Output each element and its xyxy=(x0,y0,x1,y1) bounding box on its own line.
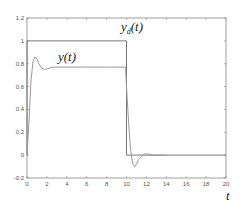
series-line-y xyxy=(27,57,166,167)
step-response-chart: 02468101214161820-0.200.20.40.60.811.2 y… xyxy=(0,0,240,213)
y-tick-label: 1.2 xyxy=(16,15,25,21)
y-tick-label: 1 xyxy=(21,38,25,44)
data-series xyxy=(27,41,226,167)
x-tick-label: 16 xyxy=(183,181,190,187)
y-tick-label: 0.8 xyxy=(16,61,25,67)
y-annotation: y(t) xyxy=(56,49,76,64)
yd-annotation: yd(t) xyxy=(119,19,143,36)
x-tick-label: 12 xyxy=(143,181,150,187)
y-tick-label: 0.2 xyxy=(16,129,25,135)
x-tick-label: 0 xyxy=(25,181,29,187)
x-tick-label: 20 xyxy=(223,181,230,187)
y-tick-label: 0.6 xyxy=(16,84,25,90)
x-tick-label: 2 xyxy=(45,181,49,187)
y-tick-label: -0.2 xyxy=(14,175,25,181)
x-axis-label: t xyxy=(226,188,230,203)
y-tick-label: 0.4 xyxy=(16,106,25,112)
x-tick-label: 10 xyxy=(123,181,130,187)
x-tick-label: 14 xyxy=(163,181,170,187)
x-tick-label: 18 xyxy=(203,181,210,187)
series-line-yd xyxy=(27,41,226,155)
y-tick-label: 0 xyxy=(21,152,25,158)
x-tick-label: 6 xyxy=(85,181,89,187)
x-tick-label: 4 xyxy=(65,181,69,187)
x-tick-label: 8 xyxy=(105,181,109,187)
